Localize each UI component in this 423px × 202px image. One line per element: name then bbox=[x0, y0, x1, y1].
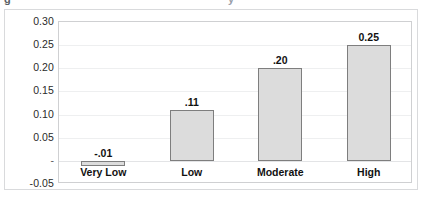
category-label: Moderate bbox=[257, 166, 304, 178]
bar-value-label: .11 bbox=[185, 96, 199, 108]
bar-series: -.01Very Low.11Low.20Moderate0.25High bbox=[59, 22, 411, 182]
y-tick-label: 0.05 bbox=[33, 131, 54, 143]
bar[interactable] bbox=[258, 68, 302, 161]
title-remnant-left-glyph: g bbox=[4, 0, 11, 5]
y-tick-label: 0.10 bbox=[33, 108, 54, 120]
bar-group: .20Moderate bbox=[236, 22, 325, 182]
category-label: High bbox=[357, 166, 380, 178]
y-tick-label: 0.30 bbox=[33, 15, 54, 27]
chart-frame: 0.300.250.200.150.100.05--0.05 -.01Very … bbox=[4, 9, 418, 190]
bar-group: -.01Very Low bbox=[59, 22, 148, 182]
y-axis: 0.300.250.200.150.100.05--0.05 bbox=[11, 21, 54, 183]
y-tick-label: 0.25 bbox=[33, 38, 54, 50]
cropped-title-remnant: g y bbox=[0, 0, 423, 7]
category-label: Very Low bbox=[80, 166, 126, 178]
bar-value-label: 0.25 bbox=[359, 31, 379, 43]
y-tick-label: 0.15 bbox=[33, 84, 54, 96]
bar[interactable] bbox=[170, 110, 214, 161]
category-label: Low bbox=[181, 166, 202, 178]
y-tick-label: - bbox=[50, 154, 54, 166]
bar-group: 0.25High bbox=[325, 22, 414, 182]
plot-area: -.01Very Low.11Low.20Moderate0.25High bbox=[58, 21, 412, 183]
chart-plot-wrapper: 0.300.250.200.150.100.05--0.05 -.01Very … bbox=[5, 10, 419, 191]
title-remnant-right-glyph: y bbox=[228, 0, 234, 5]
y-tick-label: -0.05 bbox=[30, 177, 54, 189]
bar-value-label: .20 bbox=[273, 54, 288, 66]
bar-group: .11Low bbox=[148, 22, 237, 182]
bar[interactable] bbox=[347, 45, 391, 161]
bar-value-label: -.01 bbox=[94, 147, 112, 159]
y-tick-label: 0.20 bbox=[33, 61, 54, 73]
